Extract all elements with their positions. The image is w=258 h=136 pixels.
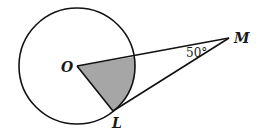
angle-label-m: 50° [186, 46, 207, 60]
geometry-diagram: O L M 50° [0, 0, 258, 136]
label-l: L [111, 115, 122, 131]
label-o: O [61, 59, 74, 75]
label-m: M [233, 30, 250, 46]
